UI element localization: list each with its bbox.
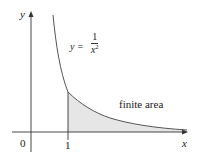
region-label: finite area (119, 99, 163, 110)
denominator-exponent: 2 (95, 44, 98, 50)
equation-fraction: 1 x2 (91, 32, 98, 55)
equation-numerator: 1 (91, 32, 98, 42)
x-tick-label-1: 1 (65, 140, 71, 151)
origin-label: 0 (20, 138, 26, 149)
y-axis-arrow-icon (29, 11, 34, 17)
x-axis-label: x (182, 138, 187, 149)
y-axis-label: y (20, 9, 25, 20)
equation-denominator: x2 (91, 45, 98, 55)
graph-canvas (0, 0, 198, 160)
equation-lhs: y = (70, 42, 84, 52)
